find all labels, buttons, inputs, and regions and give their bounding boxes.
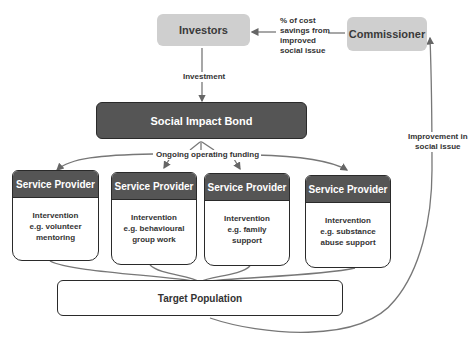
commissioner-node: Commissioner — [347, 17, 427, 51]
sib-label: Social Impact Bond — [150, 115, 252, 127]
service-provider-header: Service Provider — [205, 174, 289, 201]
improvement-edge-label: Improvement in social issue — [408, 132, 468, 152]
investors-label: Investors — [179, 24, 228, 36]
service-provider-2: Service Provider Intervention e.g. behav… — [111, 172, 197, 265]
target-population-node: Target Population — [57, 280, 343, 316]
intervention-text: Intervention e.g. volunteer mentoring — [13, 198, 98, 243]
investors-node: Investors — [157, 14, 250, 46]
service-provider-4: Service Provider Intervention e.g. subst… — [305, 175, 391, 268]
service-provider-header: Service Provider — [13, 171, 98, 198]
intervention-text: Intervention e.g. substance abuse suppor… — [306, 203, 390, 248]
social-impact-bond-node: Social Impact Bond — [96, 102, 307, 139]
savings-edge-label: % of cost savings from improved social i… — [280, 16, 330, 56]
service-provider-3: Service Provider Intervention e.g. famil… — [204, 173, 290, 266]
service-provider-header: Service Provider — [112, 173, 196, 200]
target-population-label: Target Population — [158, 293, 242, 304]
commissioner-label: Commissioner — [349, 28, 425, 40]
service-provider-1: Service Provider Intervention e.g. volun… — [12, 170, 99, 261]
service-provider-header: Service Provider — [306, 176, 390, 203]
intervention-text: Intervention e.g. behavioural group work — [112, 200, 196, 245]
intervention-text: Intervention e.g. family support — [205, 201, 289, 246]
investment-edge-label: Investment — [183, 72, 225, 82]
funding-edge-label: Ongoing operating funding — [154, 150, 261, 160]
